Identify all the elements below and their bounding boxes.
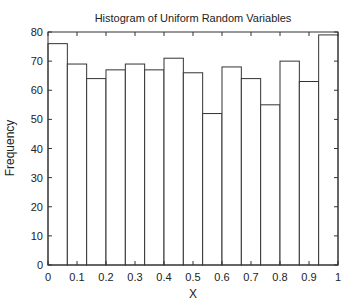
x-tick-label: 0.3: [127, 271, 142, 283]
x-tick-label: 0.7: [243, 271, 258, 283]
x-tick-label: 0.1: [69, 271, 84, 283]
x-tick-label: 0.5: [185, 271, 200, 283]
y-tick-label: 40: [31, 143, 43, 155]
x-tick-label: 1: [335, 271, 341, 283]
histogram-bar: [299, 82, 318, 265]
y-tick-label: 70: [31, 55, 43, 67]
histogram-bar: [164, 58, 183, 265]
histogram-bar: [222, 67, 241, 265]
histogram-bar: [67, 64, 86, 265]
y-tick-label: 20: [31, 201, 43, 213]
y-tick-label: 30: [31, 172, 43, 184]
histogram-bar: [106, 70, 125, 265]
histogram-bar: [145, 70, 164, 265]
histogram-chart: Histogram of Uniform Random Variables 01…: [0, 0, 360, 308]
x-axis-label: X: [189, 287, 197, 301]
histogram-bar: [203, 114, 222, 265]
y-tick-label: 0: [37, 259, 43, 271]
y-tick-label: 10: [31, 230, 43, 242]
x-tick-label: 0.8: [272, 271, 287, 283]
y-tick-label: 60: [31, 84, 43, 96]
y-axis-label: Frequency: [3, 120, 17, 177]
x-tick-label: 0.6: [214, 271, 229, 283]
x-tick-label: 0.4: [156, 271, 171, 283]
histogram-bar: [241, 79, 260, 265]
histogram-bar: [280, 61, 299, 265]
x-tick-label: 0: [45, 271, 51, 283]
y-tick-label: 50: [31, 113, 43, 125]
x-tick-label: 0.2: [98, 271, 113, 283]
histogram-bar: [87, 79, 106, 265]
x-tick-label: 0.9: [301, 271, 316, 283]
y-tick-label: 80: [31, 26, 43, 38]
histogram-bar: [48, 44, 67, 265]
histogram-bar: [261, 105, 280, 265]
chart-title: Histogram of Uniform Random Variables: [95, 12, 292, 24]
histogram-bar: [125, 64, 144, 265]
histogram-bar: [319, 35, 338, 265]
histogram-bar: [183, 73, 202, 265]
bars: [48, 35, 338, 265]
